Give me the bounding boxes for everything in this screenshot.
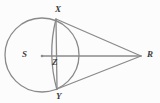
geometry-figure: X S Z Y R [0, 0, 160, 103]
vertex-label-x: X [55, 5, 61, 14]
vertex-label-y: Y [56, 92, 62, 101]
center-point-dot [41, 55, 44, 58]
vertex-label-s: S [22, 50, 27, 59]
vertex-label-r: R [147, 50, 153, 59]
vertex-label-z: Z [52, 58, 58, 67]
